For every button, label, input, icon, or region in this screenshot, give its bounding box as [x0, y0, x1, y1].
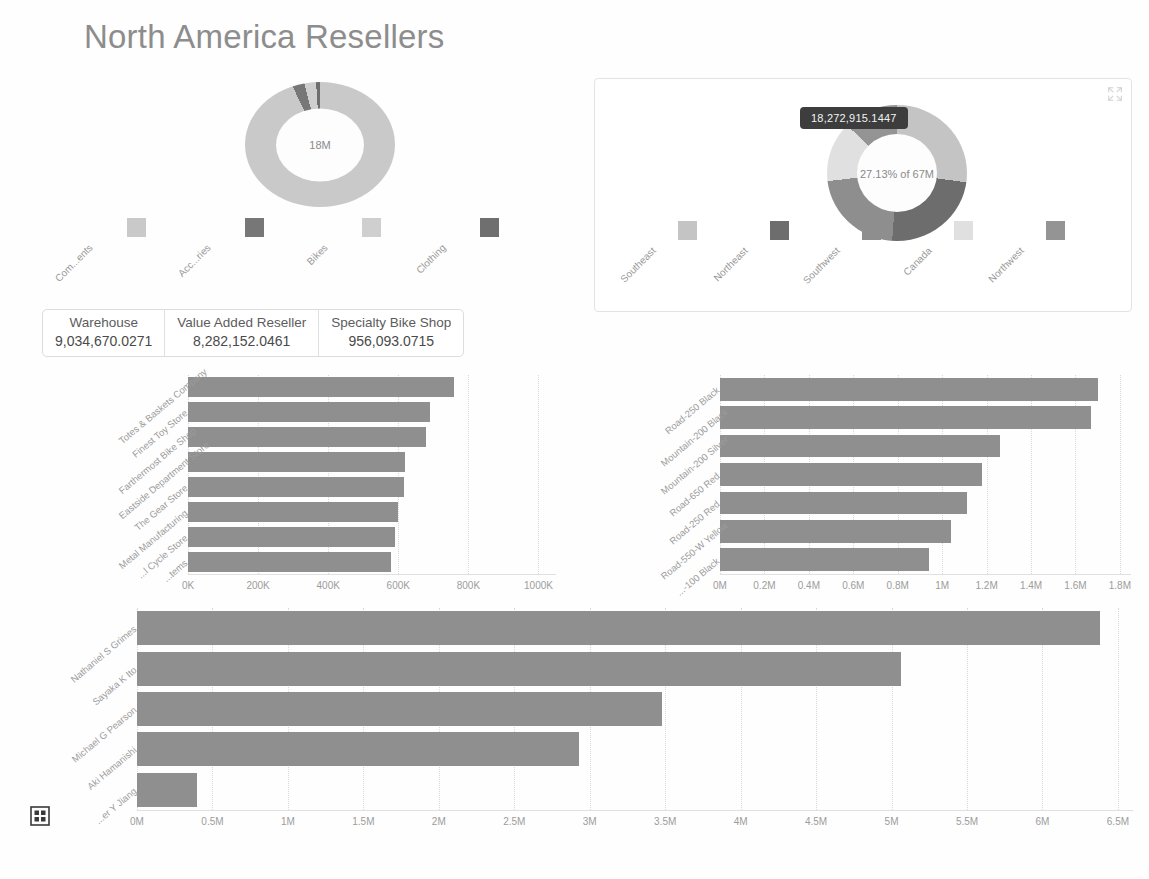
legend-label: Clothing — [440, 216, 474, 250]
bar[interactable] — [188, 402, 430, 422]
x-axis-tick: 4M — [734, 816, 748, 827]
plot-area — [720, 375, 1131, 574]
bar[interactable] — [188, 452, 405, 472]
bar[interactable] — [188, 377, 454, 397]
plot-area — [137, 608, 1133, 810]
bar[interactable] — [720, 406, 1091, 429]
gridline — [468, 375, 469, 574]
bar[interactable] — [720, 548, 929, 571]
kpi-card[interactable]: Value Added Reseller8,282,152.0461 — [165, 310, 319, 356]
bar[interactable] — [137, 652, 901, 686]
x-axis-tick: 1.8M — [1109, 580, 1131, 591]
x-axis-tick: 200K — [246, 580, 269, 591]
resellers-bar-chart[interactable]: Totes & Baskets CompanyFinest Toy StoreF… — [100, 375, 560, 600]
bar[interactable] — [137, 732, 579, 766]
bar[interactable] — [137, 611, 1100, 645]
x-axis-tick: 0M — [130, 816, 144, 827]
x-axis-tick: 1M — [281, 816, 295, 827]
x-axis-tick: 1000K — [524, 580, 553, 591]
dashboard-canvas: North America Resellers 18M Com...entsAc… — [0, 0, 1149, 879]
gridline — [987, 375, 988, 574]
kpi-value: 9,034,670.0271 — [55, 333, 152, 349]
grid-apps-icon[interactable] — [30, 806, 50, 826]
category-legend: Com...entsAcc...riesBikesClothing — [78, 218, 548, 237]
category-label: Road-550-W Yellow — [659, 527, 722, 582]
bar[interactable] — [720, 463, 982, 486]
legend-swatch — [954, 221, 973, 240]
kpi-title: Value Added Reseller — [177, 315, 306, 330]
x-axis-tick: 4.5M — [805, 816, 827, 827]
region-legend: SoutheastNortheastSouthwestCanadaNorthwe… — [641, 221, 1101, 240]
kpi-card[interactable]: Specialty Bike Shop956,093.0715 — [319, 310, 463, 356]
x-axis-tick: 3M — [583, 816, 597, 827]
legend-swatch — [480, 218, 499, 237]
donut-center-label: 18M — [309, 137, 330, 152]
bar[interactable] — [137, 773, 197, 807]
bar[interactable] — [188, 552, 391, 572]
legend-item[interactable]: Clothing — [431, 218, 549, 237]
x-axis-tick: 600K — [387, 580, 410, 591]
x-axis-line — [188, 574, 556, 575]
kpi-title: Specialty Bike Shop — [331, 315, 451, 330]
x-axis-tick: 0K — [182, 580, 194, 591]
x-axis-tick: 6M — [1036, 816, 1050, 827]
bar[interactable] — [188, 502, 398, 522]
region-donut-center-label: 27.13% of 67M — [827, 167, 967, 182]
legend-swatch — [127, 218, 146, 237]
x-axis-line — [720, 574, 1131, 575]
legend-item[interactable]: Southwest — [825, 221, 917, 240]
bar[interactable] — [188, 477, 404, 497]
legend-item[interactable]: Northwest — [1009, 221, 1101, 240]
x-axis-tick: 0.4M — [798, 580, 820, 591]
x-axis-tick: 1.6M — [1064, 580, 1086, 591]
x-axis-tick: 1M — [935, 580, 949, 591]
bar[interactable] — [720, 520, 951, 543]
x-axis-tick: 400K — [317, 580, 340, 591]
salespeople-bar-chart[interactable]: Nathaniel S GrimesSayaka K ItoMichael G … — [42, 608, 1137, 838]
x-axis-tick: 5.5M — [956, 816, 978, 827]
legend-item[interactable]: Southeast — [641, 221, 733, 240]
x-axis-tick: 1.2M — [975, 580, 997, 591]
legend-label: Bikes — [322, 225, 347, 250]
category-donut-chart[interactable]: 18M — [245, 82, 395, 207]
x-axis-tick: 0.8M — [887, 580, 909, 591]
bar[interactable] — [188, 427, 426, 447]
legend-swatch — [362, 218, 381, 237]
legend-label: Com...ents — [87, 208, 129, 250]
kpi-value: 8,282,152.0461 — [193, 333, 290, 349]
donut-hole: 18M — [276, 108, 364, 181]
region-focus-panel[interactable]: 27.13% of 67M 18,272,915.1447 SoutheastN… — [594, 78, 1132, 312]
x-axis-tick: 5M — [885, 816, 899, 827]
x-axis-tick: 3.5M — [654, 816, 676, 827]
legend-item[interactable]: Northeast — [733, 221, 825, 240]
expand-arrows-icon[interactable] — [1106, 85, 1124, 103]
legend-item[interactable]: Bikes — [313, 218, 431, 237]
gridline — [538, 375, 539, 574]
x-axis-tick: 0.6M — [842, 580, 864, 591]
legend-swatch — [245, 218, 264, 237]
legend-item[interactable]: Com...ents — [78, 218, 196, 237]
products-bar-chart[interactable]: Road-250 BlackMountain-200 BlackMountain… — [645, 375, 1135, 600]
bar[interactable] — [720, 435, 1000, 458]
legend-item[interactable]: Canada — [917, 221, 1009, 240]
bar[interactable] — [720, 378, 1098, 401]
plot-area — [188, 375, 556, 574]
region-value-tooltip: 18,272,915.1447 — [800, 107, 908, 129]
kpi-title: Warehouse — [69, 315, 138, 330]
legend-item[interactable]: Acc...ries — [196, 218, 314, 237]
x-axis-tick: 1.4M — [1020, 580, 1042, 591]
x-axis-tick: 0M — [713, 580, 727, 591]
category-label: Mountain-200 Silver — [659, 441, 722, 496]
category-donut-ring[interactable]: 18M — [245, 82, 395, 207]
gridline — [1118, 608, 1119, 810]
category-label: Road-650 Red — [659, 470, 722, 525]
bar[interactable] — [188, 527, 395, 547]
x-axis-tick: 2M — [432, 816, 446, 827]
bar[interactable] — [720, 492, 967, 515]
kpi-card[interactable]: Warehouse9,034,670.0271 — [43, 310, 165, 356]
x-axis-tick: 800K — [457, 580, 480, 591]
bar[interactable] — [137, 692, 662, 726]
gridline — [1075, 375, 1076, 574]
x-axis-tick: 0.2M — [753, 580, 775, 591]
x-axis-tick: 2.5M — [503, 816, 525, 827]
